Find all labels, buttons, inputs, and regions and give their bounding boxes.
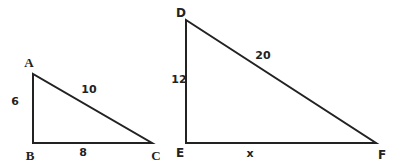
side-label-bc: 8 bbox=[79, 147, 87, 158]
side-label-de: 12 bbox=[171, 74, 186, 85]
vertex-label-c: C bbox=[151, 149, 160, 162]
vertex-label-d: D bbox=[176, 7, 186, 19]
side-label-df: 20 bbox=[255, 50, 270, 61]
triangle-def bbox=[186, 20, 376, 143]
side-label-ab: 6 bbox=[11, 96, 19, 107]
vertex-label-f: F bbox=[378, 149, 386, 161]
vertex-label-e: E bbox=[176, 147, 184, 159]
side-label-ef: x bbox=[246, 148, 253, 159]
vertex-label-a: A bbox=[24, 56, 33, 69]
side-label-ac: 10 bbox=[81, 84, 96, 95]
vertex-label-b: B bbox=[26, 149, 35, 162]
triangles-svg bbox=[0, 0, 400, 166]
diagram-canvas: A B C 6 8 10 D E F 12 x 20 bbox=[0, 0, 400, 166]
